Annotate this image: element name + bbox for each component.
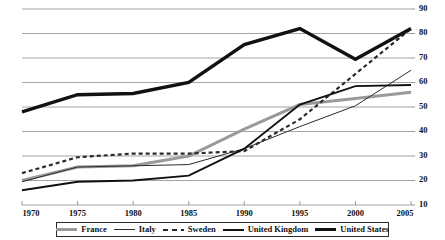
y-tick-label: 30 — [419, 150, 428, 160]
y-tick-label: 60 — [419, 76, 428, 86]
chart-plot-area: 102030405060708090 197019751980198519901… — [0, 0, 445, 240]
y-tick-label: 90 — [419, 3, 428, 13]
legend-label: United States — [340, 225, 388, 234]
x-axis-ticks — [22, 201, 411, 205]
legend-label: Sweden — [188, 225, 216, 234]
x-axis-tick-labels: 19701975198019851990199520002005 — [23, 208, 414, 218]
y-tick-label: 40 — [419, 125, 428, 135]
data-series-group — [22, 29, 411, 191]
legend-swatch-icon — [114, 229, 135, 230]
series-line-united-kingdom — [22, 85, 411, 190]
gridlines — [22, 9, 415, 205]
x-tick-label: 1985 — [180, 208, 197, 218]
x-tick-label: 1980 — [125, 208, 142, 218]
legend-entry-france[interactable]: France — [56, 225, 107, 234]
y-tick-label: 80 — [419, 27, 428, 37]
x-tick-label: 2005 — [397, 208, 414, 218]
x-tick-label: 1990 — [236, 208, 253, 218]
legend-swatch-icon — [223, 229, 244, 231]
x-tick-label: 1970 — [23, 208, 40, 218]
legend-swatch-icon — [163, 229, 184, 231]
y-axis-tick-labels: 102030405060708090 — [419, 3, 428, 209]
legend-entry-sweden[interactable]: Sweden — [163, 225, 216, 234]
legend-label: France — [81, 225, 107, 234]
legend-swatch-icon — [315, 228, 336, 231]
legend-entry-italy[interactable]: Italy — [114, 225, 156, 234]
y-tick-label: 10 — [419, 199, 428, 209]
x-tick-label: 1995 — [291, 208, 308, 218]
legend-entry-united-states[interactable]: United States — [315, 225, 388, 234]
legend-label: Italy — [139, 225, 156, 234]
y-tick-label: 70 — [419, 52, 428, 62]
legend-label: United Kingdom — [248, 225, 309, 234]
x-tick-label: 2000 — [347, 208, 364, 218]
legend-entry-united-kingdom[interactable]: United Kingdom — [223, 225, 309, 234]
series-line-sweden — [22, 29, 411, 174]
line-chart: 102030405060708090 197019751980198519901… — [0, 0, 445, 240]
legend-swatch-icon — [56, 228, 77, 231]
chart-legend: FranceItalySwedenUnited KingdomUnited St… — [56, 222, 389, 237]
y-tick-label: 20 — [419, 174, 428, 184]
y-tick-label: 50 — [419, 101, 428, 111]
x-tick-label: 1975 — [69, 208, 86, 218]
